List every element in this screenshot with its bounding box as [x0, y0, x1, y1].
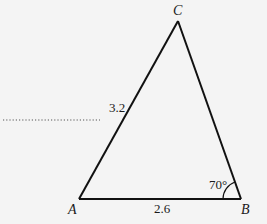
- diagram-svg: C A B 3.2 2.6 70°: [0, 0, 267, 224]
- angle-label-B: 70°: [209, 177, 227, 192]
- side-CB: [178, 21, 241, 199]
- vertex-label-A: A: [67, 202, 77, 217]
- triangle-diagram: C A B 3.2 2.6 70°: [0, 0, 267, 224]
- side-label-AB: 2.6: [154, 201, 171, 216]
- vertex-label-C: C: [173, 3, 183, 18]
- side-AC: [79, 21, 178, 199]
- vertex-label-B: B: [241, 202, 250, 217]
- side-label-AC: 3.2: [109, 100, 125, 115]
